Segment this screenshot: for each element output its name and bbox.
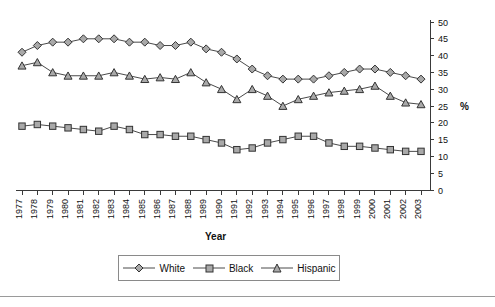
triangle-marker — [33, 59, 41, 66]
square-marker — [65, 125, 71, 131]
square-marker — [341, 143, 347, 149]
diamond-marker — [95, 35, 103, 43]
diamond-marker — [325, 72, 333, 80]
x-tick-label: 1982 — [91, 199, 101, 219]
triangle-marker — [279, 102, 287, 109]
square-marker — [295, 133, 301, 139]
x-tick-label: 2003 — [413, 199, 423, 219]
triangle-marker-icon — [260, 262, 294, 274]
x-axis: 1977197819791980198119821983198419851986… — [14, 190, 430, 219]
legend-item-black[interactable]: Black — [192, 262, 253, 274]
square-marker — [280, 136, 286, 142]
series-line-white — [22, 39, 421, 79]
diamond-marker-icon — [122, 262, 156, 274]
diamond-marker — [64, 38, 72, 46]
triangle-marker — [110, 69, 118, 76]
diamond-marker — [79, 35, 87, 43]
diamond-marker — [187, 38, 195, 46]
diamond-marker — [264, 72, 272, 80]
triangle-marker — [264, 92, 272, 99]
triangle-marker — [371, 82, 379, 89]
square-marker — [402, 148, 408, 154]
square-marker — [234, 146, 240, 152]
square-marker — [157, 131, 163, 137]
series-black — [19, 121, 424, 154]
y-tick-label: 40 — [438, 51, 448, 61]
legend-label-black: Black — [229, 263, 253, 274]
x-tick-label: 1998 — [336, 199, 346, 219]
square-marker — [218, 140, 224, 146]
legend-label-hispanic: Hispanic — [297, 263, 335, 274]
x-tick-label: 1993 — [260, 199, 270, 219]
y-tick-label: 45 — [438, 34, 448, 44]
diamond-marker — [233, 55, 241, 63]
square-marker — [34, 121, 40, 127]
diamond-marker — [310, 75, 318, 83]
triangle-marker — [49, 69, 57, 76]
triangle-marker — [402, 99, 410, 106]
x-axis-title: Year — [205, 231, 226, 242]
diamond-marker — [386, 68, 394, 76]
square-marker — [372, 145, 378, 151]
x-tick-label: 1992 — [244, 199, 254, 219]
y-tick-label: 10 — [438, 152, 448, 162]
x-tick-label: 1990 — [214, 199, 224, 219]
square-marker — [111, 123, 117, 129]
x-tick-label: 1977 — [14, 199, 24, 219]
chart-legend: White Black Hispanic — [118, 255, 340, 281]
x-tick-label: 1984 — [121, 199, 131, 219]
chart-figure: 05101520253035404550 1977197819791980198… — [0, 0, 495, 307]
y-tick-label: 30 — [438, 85, 448, 95]
y-tick-label: 35 — [438, 68, 448, 78]
diamond-marker — [417, 75, 425, 83]
x-tick-label: 1994 — [275, 199, 285, 219]
triangle-marker — [386, 92, 394, 99]
triangle-marker — [218, 85, 226, 92]
x-tick-label: 1988 — [183, 199, 193, 219]
triangle-marker — [233, 95, 241, 102]
legend-item-hispanic[interactable]: Hispanic — [260, 262, 335, 274]
x-tick-label: 1999 — [352, 199, 362, 219]
diamond-marker — [141, 38, 149, 46]
y-tick-label: 25 — [438, 102, 448, 112]
x-tick-label: 1997 — [321, 199, 331, 219]
y-tick-label: 5 — [438, 169, 443, 179]
square-marker — [49, 123, 55, 129]
plot-area: 05101520253035404550 1977197819791980198… — [0, 0, 495, 250]
x-tick-label: 1991 — [229, 199, 239, 219]
legend-item-white[interactable]: White — [122, 262, 185, 274]
square-marker — [203, 136, 209, 142]
x-tick-label: 1983 — [106, 199, 116, 219]
diamond-marker — [356, 65, 364, 73]
square-marker — [172, 133, 178, 139]
square-marker — [80, 126, 86, 132]
diamond-marker — [125, 38, 133, 46]
diamond-marker — [49, 38, 57, 46]
y-tick-label: 0 — [438, 186, 443, 196]
x-tick-label: 1989 — [198, 199, 208, 219]
square-marker — [264, 140, 270, 146]
data-series-group — [18, 35, 425, 155]
diamond-marker — [202, 45, 210, 53]
triangle-marker — [187, 69, 195, 76]
diamond-marker — [279, 75, 287, 83]
y-tick-label: 20 — [438, 118, 448, 128]
x-tick-label: 1986 — [152, 199, 162, 219]
diamond-marker — [248, 65, 256, 73]
square-marker — [418, 148, 424, 154]
y-tick-label: 50 — [438, 18, 448, 28]
square-marker — [356, 143, 362, 149]
diamond-marker — [294, 75, 302, 83]
x-tick-label: 1981 — [75, 199, 85, 219]
diamond-marker — [110, 35, 118, 43]
square-marker — [126, 126, 132, 132]
x-tick-label: 2001 — [382, 199, 392, 219]
diamond-marker — [156, 42, 164, 50]
square-marker — [142, 131, 148, 137]
diamond-marker — [18, 48, 26, 56]
square-marker — [326, 140, 332, 146]
y-tick-label: 15 — [438, 135, 448, 145]
diamond-marker — [171, 42, 179, 50]
line-chart-svg: 05101520253035404550 1977197819791980198… — [0, 0, 495, 250]
x-tick-label: 1985 — [137, 199, 147, 219]
